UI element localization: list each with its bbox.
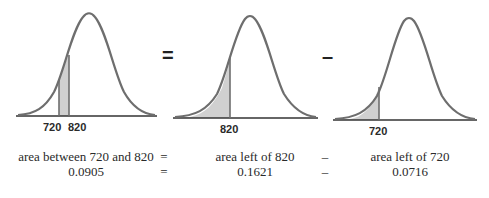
minus-sign: – (322, 45, 333, 67)
normal-curve (18, 13, 155, 115)
eq-row2-left: 0.0905 (18, 164, 154, 180)
eq-row1-left: area between 720 and 820 (18, 149, 154, 165)
tick-label-820: 820 (220, 123, 238, 135)
eq-row1-mid: area left of 820 (205, 149, 305, 165)
panel-left-720: 720 (333, 18, 477, 137)
eq-row2-mid: 0.1621 (205, 164, 305, 180)
panel-left-820: 820 (173, 16, 318, 135)
normal-curves-figure: 720 820 = 820 – 720 (0, 0, 489, 140)
normal-curve (175, 16, 316, 117)
eq-row1-right: area left of 720 (360, 149, 460, 165)
normal-curve (335, 18, 475, 119)
eq-row2-op2: – (318, 164, 332, 180)
equals-sign: = (162, 44, 174, 66)
eq-row2-right: 0.0716 (360, 164, 460, 180)
panel-between: 720 820 (16, 13, 157, 133)
eq-row1-op2: – (318, 149, 332, 165)
eq-row1-op1: = (157, 149, 171, 165)
tick-label-720: 720 (43, 121, 61, 133)
tick-label-720: 720 (369, 125, 387, 137)
eq-row2-op1: = (157, 164, 171, 180)
tick-label-820: 820 (68, 121, 86, 133)
